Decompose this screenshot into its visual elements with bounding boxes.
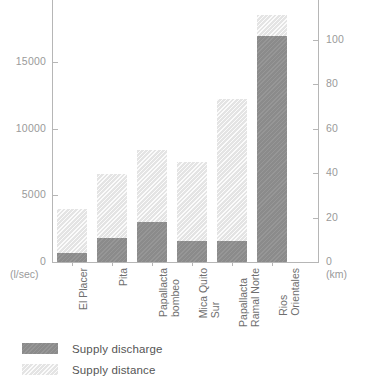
bar-group[interactable] (217, 0, 247, 262)
bar-segment-supply-discharge[interactable] (57, 253, 87, 262)
right-axis-tick (313, 84, 319, 85)
bar-group[interactable] (257, 0, 287, 262)
right-axis-tick (313, 129, 319, 130)
bar-group[interactable] (177, 0, 207, 262)
right-axis-tick (313, 218, 319, 219)
left-y-axis-line (52, 0, 53, 263)
left-axis-tick (52, 262, 58, 263)
category-label-line: Sur (209, 268, 221, 318)
category-label: PapallactaRamal Norte (237, 268, 261, 327)
category-label-line: Orientales (289, 268, 301, 316)
left-axis-tick-label: 15000 (2, 55, 46, 67)
right-axis-tick-label: 60 (326, 122, 360, 134)
category-label: Papallactabombeo (157, 268, 181, 317)
category-label-line: Ramal Norte (249, 268, 261, 327)
category-label-line: Rios (277, 295, 289, 316)
x-axis-tick (232, 262, 233, 266)
category-label: Mica QuitoSur (197, 268, 221, 318)
bar-segment-supply-discharge[interactable] (257, 36, 287, 262)
right-axis-tick-label: 0 (326, 255, 360, 267)
right-axis-tick (313, 262, 319, 263)
right-axis-unit: (km) (326, 268, 347, 280)
chart-legend: Supply dischargeSupply distance (22, 338, 302, 380)
bar-segment-supply-distance[interactable] (137, 150, 167, 222)
bar-segment-supply-distance[interactable] (217, 99, 247, 241)
x-axis-tick (112, 262, 113, 266)
bar-segment-supply-distance[interactable] (177, 162, 207, 241)
legend-swatch (22, 364, 58, 375)
bar-segment-supply-distance[interactable] (97, 174, 127, 238)
right-axis-tick-label: 100 (326, 33, 360, 45)
category-label-line: Papallacta (157, 268, 169, 317)
legend-item[interactable]: Supply discharge (22, 338, 302, 359)
legend-item[interactable]: Supply distance (22, 359, 302, 380)
x-axis-tick (192, 262, 193, 266)
bar-segment-supply-distance[interactable] (57, 209, 87, 253)
x-axis-tick (272, 262, 273, 266)
bar-segment-supply-discharge[interactable] (177, 241, 207, 262)
bar-chart: 05000100001500020000 020406080100120 (l/… (0, 0, 365, 388)
category-label-line: Papallacta (237, 278, 249, 327)
x-axis-tick (152, 262, 153, 266)
x-axis-tick (72, 262, 73, 266)
bar-group[interactable] (97, 0, 127, 262)
right-axis-tick-label: 80 (326, 77, 360, 89)
legend-label: Supply distance (72, 364, 155, 376)
right-axis-tick-label: 20 (326, 211, 360, 223)
bar-group[interactable] (57, 0, 87, 262)
right-axis-tick-label: 40 (326, 166, 360, 178)
category-label-line: Pita (117, 268, 129, 286)
bar-segment-supply-discharge[interactable] (97, 238, 127, 262)
bar-segment-supply-discharge[interactable] (137, 222, 167, 262)
bar-segment-supply-discharge[interactable] (217, 241, 247, 262)
left-axis-tick-label: 10000 (2, 122, 46, 134)
category-label: RiosOrientales (277, 268, 301, 316)
bar-segment-supply-distance[interactable] (257, 15, 287, 36)
left-axis-tick-label: 0 (2, 255, 46, 267)
left-axis-unit: (l/sec) (10, 268, 39, 280)
x-axis-line (52, 262, 319, 263)
category-label: El Placer (77, 268, 89, 310)
category-label-line: bombeo (169, 268, 181, 317)
category-label-line: Mica Quito (197, 268, 209, 318)
plot-area (57, 0, 305, 262)
category-label: Pita (117, 268, 129, 286)
category-label-line: El Placer (77, 268, 89, 310)
legend-swatch (22, 343, 58, 354)
right-axis-tick (313, 173, 319, 174)
legend-label: Supply discharge (72, 343, 163, 355)
left-axis-tick-label: 5000 (2, 188, 46, 200)
bar-group[interactable] (137, 0, 167, 262)
right-axis-tick (313, 40, 319, 41)
